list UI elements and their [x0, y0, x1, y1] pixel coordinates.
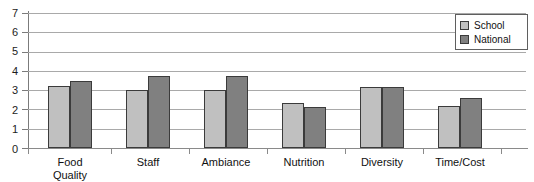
y-tick-label: 1: [0, 124, 18, 134]
bar-group: [282, 103, 326, 148]
x-category-label-nutrition: Nutrition: [270, 156, 338, 169]
x-tick-mark: [501, 148, 502, 154]
x-axis-line: [28, 148, 528, 149]
bar-national[interactable]: [304, 107, 326, 148]
legend: School National: [455, 14, 528, 50]
x-tick-mark: [423, 148, 424, 154]
bar-school[interactable]: [282, 103, 304, 148]
y-tick-label: 3: [0, 85, 18, 95]
gridline: [28, 13, 526, 14]
bar-school[interactable]: [204, 90, 226, 148]
x-category-label-food-quality: Food Quality: [36, 156, 104, 182]
legend-item-national[interactable]: National: [460, 32, 523, 46]
bar-group: [204, 76, 248, 148]
gridline: [28, 32, 526, 33]
bar-school[interactable]: [438, 106, 460, 148]
y-tick-label: 0: [0, 144, 18, 154]
gridline: [28, 90, 526, 91]
gridline: [28, 71, 526, 72]
y-tick-label: 6: [0, 27, 18, 37]
x-category-label-ambiance: Ambiance: [192, 156, 260, 169]
x-tick-mark: [28, 148, 29, 154]
gridline: [28, 52, 526, 53]
x-tick-mark: [189, 148, 190, 154]
bar-group: [126, 76, 170, 148]
y-tick-label: 5: [0, 46, 18, 56]
bar-school[interactable]: [48, 86, 70, 148]
legend-label-national: National: [474, 34, 511, 45]
y-tick-label: 2: [0, 105, 18, 115]
bar-national[interactable]: [148, 76, 170, 148]
bar-school[interactable]: [126, 90, 148, 148]
bar-school[interactable]: [360, 87, 382, 148]
x-category-label-diversity: Diversity: [348, 156, 416, 169]
legend-swatch-national-icon: [460, 35, 469, 44]
y-tick-label: 4: [0, 66, 18, 76]
bar-chart: 7 6 5 4 3 2 1 0: [0, 0, 534, 182]
bar-national[interactable]: [70, 81, 92, 148]
x-tick-mark: [267, 148, 268, 154]
x-tick-mark: [345, 148, 346, 154]
bar-national[interactable]: [460, 98, 482, 148]
legend-swatch-school-icon: [460, 21, 469, 30]
bar-national[interactable]: [226, 76, 248, 148]
bar-national[interactable]: [382, 87, 404, 148]
bar-group: [360, 87, 404, 148]
legend-label-school: School: [474, 20, 505, 31]
y-tick-label: 7: [0, 8, 18, 18]
plot-area: [28, 13, 526, 148]
x-category-label-staff: Staff: [114, 156, 182, 169]
legend-item-school[interactable]: School: [460, 18, 523, 32]
x-tick-mark: [111, 148, 112, 154]
bar-group: [438, 98, 482, 148]
x-category-label-time-cost: Time/Cost: [426, 156, 494, 169]
bar-group: [48, 81, 92, 148]
